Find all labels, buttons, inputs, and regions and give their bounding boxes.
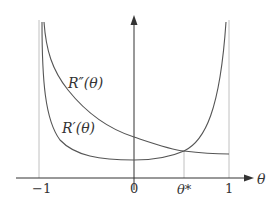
- y-axis-arrow-icon: [131, 15, 138, 25]
- tick-label-one: 1: [225, 181, 233, 196]
- figure-canvas: R″(θ) R′(θ) −1 0 θ* 1 θ: [0, 0, 275, 201]
- x-axis-arrow-icon: [244, 175, 254, 182]
- r-double-prime-label: R″(θ): [67, 75, 103, 91]
- tick-label-zero: 0: [130, 181, 138, 196]
- tick-label-theta-star: θ*: [177, 182, 192, 197]
- r-prime-label: R′(θ): [61, 120, 95, 136]
- x-axis-label: θ: [257, 171, 266, 187]
- tick-label-minus-one: −1: [32, 181, 51, 196]
